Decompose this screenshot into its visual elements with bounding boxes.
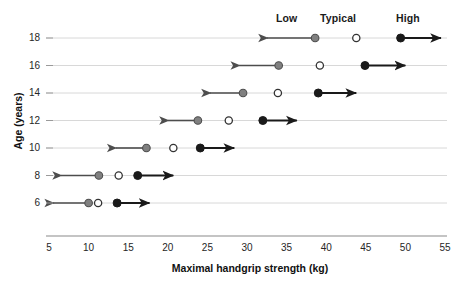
low-marker-age-12 — [194, 117, 202, 125]
typical-marker-age-14 — [274, 89, 281, 96]
typical-marker-age-18 — [353, 34, 360, 41]
high-marker-age-8 — [134, 172, 142, 180]
y-tick-label-10: 10 — [10, 142, 40, 153]
typical-marker-age-10 — [170, 144, 177, 151]
y-tick-label-14: 14 — [10, 87, 40, 98]
y-tick-group — [46, 38, 53, 203]
x-tick-label-10: 10 — [74, 242, 104, 253]
high-marker-age-18 — [397, 34, 405, 42]
y-tick-label-18: 18 — [10, 32, 40, 43]
x-tick-label-45: 45 — [351, 242, 381, 253]
x-tick-label-40: 40 — [311, 242, 341, 253]
high-marker-age-10 — [196, 144, 204, 152]
x-tick-label-30: 30 — [232, 242, 262, 253]
x-tick-label-50: 50 — [390, 242, 420, 253]
x-tick-label-20: 20 — [153, 242, 183, 253]
y-tick-label-6: 6 — [10, 197, 40, 208]
y-tick-label-8: 8 — [10, 170, 40, 181]
high-marker-age-12 — [259, 117, 267, 125]
high-marker-age-16 — [361, 62, 369, 70]
typical-marker-age-8 — [115, 172, 122, 179]
low-marker-age-18 — [311, 34, 319, 42]
legend-label-high: High — [396, 12, 420, 24]
x-tick-label-5: 5 — [34, 242, 64, 253]
legend-label-low: Low — [276, 12, 297, 24]
low-marker-age-6 — [85, 199, 93, 207]
high-marker-age-14 — [314, 89, 322, 97]
typical-marker-age-16 — [316, 62, 323, 69]
low-marker-age-8 — [95, 172, 103, 180]
x-tick-label-25: 25 — [192, 242, 222, 253]
legend-label-typical: Typical — [320, 12, 356, 24]
y-tick-label-12: 12 — [10, 115, 40, 126]
low-marker-age-14 — [239, 89, 247, 97]
low-marker-age-16 — [275, 62, 283, 70]
x-tick-label-55: 55 — [430, 242, 460, 253]
high-marker-age-6 — [113, 199, 121, 207]
typical-marker-age-6 — [95, 199, 102, 206]
y-tick-label-16: 16 — [10, 60, 40, 71]
low-marker-age-10 — [143, 144, 151, 152]
x-tick-label-15: 15 — [113, 242, 143, 253]
handgrip-strength-chart: Low Typical High Age (years) Maximal han… — [0, 0, 465, 285]
gridline-group — [46, 38, 447, 203]
x-axis-title: Maximal handgrip strength (kg) — [120, 262, 380, 274]
x-tick-label-35: 35 — [272, 242, 302, 253]
typical-marker-age-12 — [225, 117, 232, 124]
